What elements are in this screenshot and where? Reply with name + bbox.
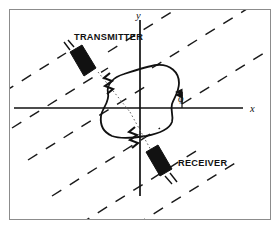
scattering-geometry-diagram: TRANSMITTER RECEIVER x y φ: [0, 0, 280, 229]
wavefront-line: [118, 160, 240, 229]
wavefront-line: [4, 53, 66, 92]
wavefront-line: [182, 53, 264, 104]
transmitter-label: TRANSMITTER: [74, 32, 143, 42]
transmitter-antenna-icon: [64, 40, 96, 76]
wavefront-line: [108, 3, 186, 52]
phi-angle-label: φ: [178, 93, 184, 104]
receiver-antenna-icon: [146, 145, 177, 184]
wavefront-line: [152, 7, 250, 68]
wavefront-line: [52, 128, 160, 196]
wavefront-line: [12, 68, 108, 128]
x-axis-label: x: [249, 103, 255, 114]
wavefront-line: [28, 85, 148, 160]
figure-root: TRANSMITTER RECEIVER x y φ scattering-ge…: [0, 0, 280, 229]
y-axis-label: y: [135, 10, 141, 21]
receiver-label: RECEIVER: [178, 158, 227, 168]
coordinate-axes: [14, 20, 243, 196]
